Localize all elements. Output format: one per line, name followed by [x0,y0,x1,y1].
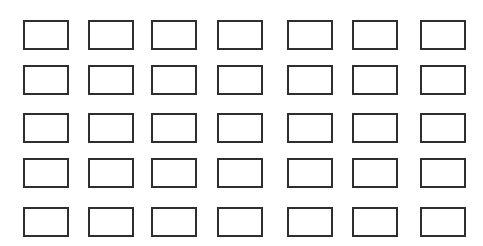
empty-rectangle [352,113,398,143]
empty-rectangle [352,65,398,95]
empty-rectangle [287,207,333,237]
empty-rectangle [287,113,333,143]
empty-rectangle [420,158,466,188]
empty-rectangle [88,113,134,143]
empty-rectangle [287,65,333,95]
empty-rectangle [151,207,197,237]
empty-rectangle [420,65,466,95]
empty-rectangle [217,20,263,50]
empty-rectangle [420,207,466,237]
empty-rectangle [23,20,69,50]
empty-rectangle [217,113,263,143]
empty-rectangle [88,207,134,237]
empty-rectangle [23,113,69,143]
empty-rectangle [23,65,69,95]
empty-rectangle [151,65,197,95]
empty-rectangle [88,20,134,50]
empty-rectangle [352,207,398,237]
empty-rectangle [23,207,69,237]
empty-rectangle [23,158,69,188]
empty-rectangle [151,113,197,143]
empty-rectangle [217,65,263,95]
empty-rectangle [151,20,197,50]
empty-rectangle [151,158,197,188]
empty-rectangle [420,20,466,50]
empty-rectangle [88,158,134,188]
empty-rectangle [217,158,263,188]
empty-rectangle [217,207,263,237]
empty-rectangle [352,158,398,188]
empty-rectangle [287,20,333,50]
empty-rectangle [352,20,398,50]
rectangle-grid [0,0,483,246]
empty-rectangle [287,158,333,188]
empty-rectangle [420,113,466,143]
empty-rectangle [88,65,134,95]
